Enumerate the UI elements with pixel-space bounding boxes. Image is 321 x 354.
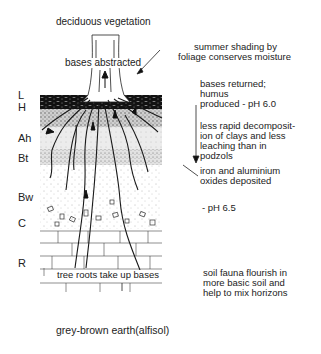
horizon-label-bt: Bt <box>18 153 28 164</box>
vegetation-label: deciduous vegetation <box>56 17 151 27</box>
diagram-title: grey-brown earth(alfisol) <box>56 325 169 335</box>
iron-aluminium-annotation: iron and aluminium oxides deposited <box>200 166 280 186</box>
bases-returned-line-3: produced - pH 6.0 <box>200 99 276 109</box>
tree-roots-label: tree roots take up bases <box>56 270 160 280</box>
summer-shading-line-2: foliage conserves moisture <box>178 52 291 62</box>
horizon-label-c: C <box>18 218 26 229</box>
iron-aluminium-line-2: oxides deposited <box>200 176 280 186</box>
bases-abstracted-label: bases abstracted <box>65 58 141 68</box>
less-rapid-annotation: less rapid decomposit- ion of clays and … <box>200 121 295 161</box>
horizon-label-h: H <box>18 102 26 113</box>
soil-horizon-bands <box>40 95 162 292</box>
soil-fauna-line-3: help to mix horizons <box>203 288 287 298</box>
soil-fauna-annotation: soil fauna flourish in more basic soil a… <box>203 268 287 298</box>
horizon-label-ah: Ah <box>18 133 31 144</box>
less-rapid-line-4: podzols <box>200 151 295 161</box>
bases-returned-annotation: bases returned; humus produced - pH 6.0 <box>200 79 276 109</box>
horizon-label-bw: Bw <box>18 192 33 203</box>
horizon-label-l: L <box>18 90 24 101</box>
tree-trunk <box>82 35 130 102</box>
horizon-label-r: R <box>18 258 26 269</box>
ph-6-5-label: - pH 6.5 <box>202 203 236 213</box>
summer-shading-annotation: summer shading by foliage conserves mois… <box>178 42 291 62</box>
